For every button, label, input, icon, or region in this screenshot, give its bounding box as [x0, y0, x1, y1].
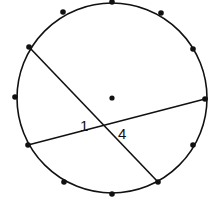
circle-point	[25, 142, 31, 148]
angle-label-1: 1	[80, 117, 88, 134]
circle-point	[61, 179, 67, 185]
circle-point	[109, 0, 115, 5]
circle-point	[12, 94, 18, 100]
circle-point	[155, 179, 161, 185]
angle-label-4: 4	[118, 125, 126, 142]
circle-point	[190, 46, 196, 52]
chords	[28, 47, 205, 182]
circle-point	[109, 191, 115, 197]
diagram-canvas: 1 4	[0, 0, 210, 206]
center-point	[109, 95, 114, 100]
circle-point	[202, 96, 208, 102]
chord-line	[29, 47, 158, 182]
circle-point	[158, 10, 164, 16]
circle-point	[26, 44, 32, 50]
circle-diagram: 1 4	[0, 0, 210, 206]
circle-point	[190, 142, 196, 148]
circle-point	[60, 9, 66, 15]
